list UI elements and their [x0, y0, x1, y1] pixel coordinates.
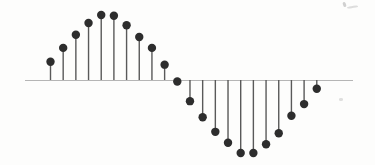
stem-plot: [0, 0, 375, 165]
sample-dot: [160, 60, 168, 68]
sample-dot: [224, 139, 232, 147]
sample-dot: [198, 113, 206, 121]
sample-dot: [148, 44, 156, 52]
sample-dot: [135, 33, 143, 41]
scan-artifact: [339, 98, 343, 101]
sample-dot: [211, 128, 219, 136]
sample-dot: [59, 44, 67, 52]
sample-dot: [84, 19, 92, 27]
figure-background: [0, 0, 375, 165]
sample-dot: [287, 112, 295, 120]
sample-dot: [72, 31, 80, 39]
sample-dot: [300, 100, 308, 108]
sample-dot: [275, 129, 283, 137]
sample-dot: [249, 149, 257, 157]
sample-dot: [237, 149, 245, 157]
sample-dot: [186, 97, 194, 105]
sample-dot: [46, 58, 54, 66]
scanned-figure-page: [0, 0, 375, 165]
sample-dot: [122, 21, 130, 29]
sample-dot: [262, 140, 270, 148]
sample-dot: [110, 12, 118, 20]
sample-dot: [97, 11, 105, 19]
sample-dot: [313, 85, 321, 93]
sample-dot: [173, 77, 181, 85]
